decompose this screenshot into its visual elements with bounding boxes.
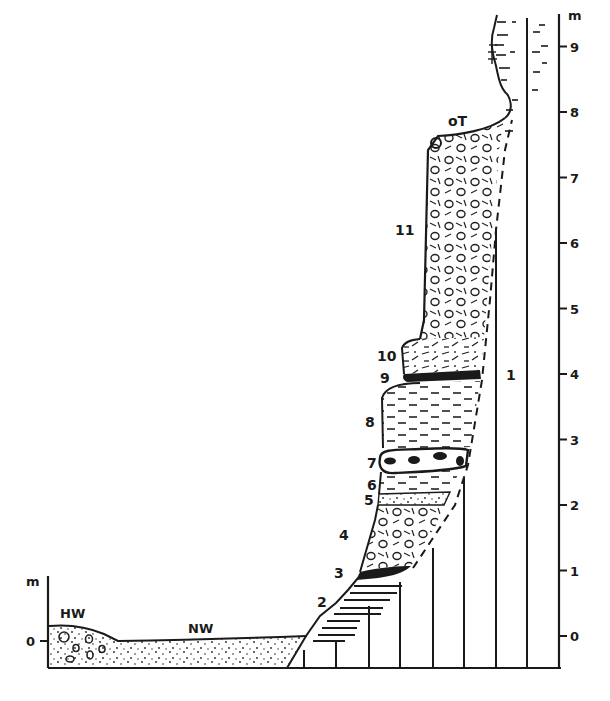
right-scale-tick-label: 1 [570, 564, 579, 579]
layer-1-label: 1 [506, 367, 516, 383]
right-scale-tick-label: 2 [570, 498, 579, 513]
right-scale-tick-label: 6 [570, 236, 579, 251]
layer-8-label: 8 [365, 414, 375, 430]
right-scale-tick-label: 5 [570, 302, 579, 317]
layer-4-gravel [360, 505, 444, 572]
floodplain-sand [49, 625, 307, 668]
left-scale-unit: m [26, 574, 40, 589]
layer-8-silt [382, 381, 480, 448]
layer-11-label: 11 [395, 222, 414, 238]
layer-10-label: 10 [377, 348, 397, 364]
layer-5-sand [378, 492, 450, 505]
right-scale-unit: m [568, 8, 582, 23]
right-scale-tick-label: 4 [570, 367, 579, 382]
layer-6-label: 6 [367, 477, 377, 493]
layer-7-label: 7 [367, 455, 377, 471]
layer-7-concretions [380, 448, 468, 473]
right-scale-tick-label: 3 [570, 433, 579, 448]
hw-label: HW [60, 606, 85, 621]
layer-5-label: 5 [364, 492, 374, 508]
left-scale: m 0 [26, 574, 48, 668]
right-scale-tick-label: 8 [570, 105, 579, 120]
geological-profile-diagram: 0123456789 m m 0 HW NW [0, 0, 610, 701]
left-scale-tick-0: 0 [26, 634, 35, 649]
layer-4-label: 4 [339, 527, 349, 543]
top-silt-dashes [495, 22, 548, 131]
top-cliff-outline [492, 15, 511, 118]
right-scale-tick-label: 0 [570, 629, 579, 644]
layer-2-label: 2 [317, 594, 327, 610]
layer-10-flaky [402, 337, 484, 374]
right-scale-tick-label: 9 [570, 40, 579, 55]
layer-11-conglomerate [420, 118, 505, 339]
right-scale: 0123456789 m [559, 8, 582, 668]
nw-label: NW [188, 621, 213, 636]
layer-3-label: 3 [334, 565, 344, 581]
ot-label: oT [448, 113, 468, 129]
layer-9-label: 9 [380, 370, 390, 386]
right-scale-tick-label: 7 [570, 171, 579, 186]
